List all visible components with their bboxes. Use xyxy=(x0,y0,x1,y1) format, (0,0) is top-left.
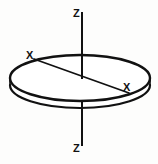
z-axis-top-label: Z xyxy=(73,8,80,19)
figure-container: Z Z X X xyxy=(0,0,158,164)
z-axis-bottom-label: Z xyxy=(73,143,80,154)
x-axis-right-label: X xyxy=(123,82,130,93)
disc-axis-diagram xyxy=(0,0,158,164)
x-axis-left-label: X xyxy=(26,50,33,61)
